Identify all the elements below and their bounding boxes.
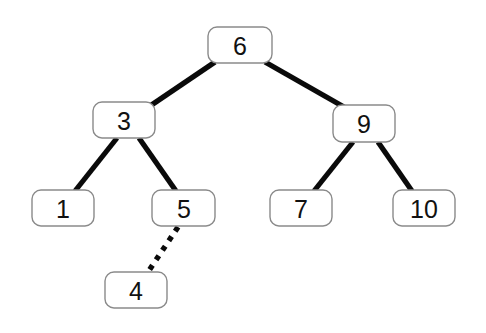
node-label-1: 1 (56, 195, 70, 223)
edge-9-to-7 (314, 142, 353, 191)
edge-9-to-10 (378, 142, 412, 191)
edge-3-to-5 (139, 138, 176, 191)
edge-3-to-1 (75, 138, 117, 191)
tree-node-4[interactable]: 4 (105, 272, 167, 308)
edge-layer (75, 62, 412, 272)
node-label-9: 9 (357, 110, 371, 138)
binary-tree-diagram: 6 3 9 1 5 7 (0, 0, 486, 333)
tree-node-6[interactable]: 6 (208, 27, 272, 63)
tree-node-5[interactable]: 5 (152, 190, 215, 226)
tree-node-3[interactable]: 3 (93, 102, 155, 138)
tree-node-10[interactable]: 10 (393, 190, 455, 226)
node-label-6: 6 (233, 32, 247, 60)
edge-6-to-3 (150, 62, 215, 106)
tree-node-1[interactable]: 1 (32, 190, 94, 226)
node-label-3: 3 (117, 107, 131, 135)
edge-6-to-9 (265, 62, 344, 107)
tree-node-7[interactable]: 7 (270, 190, 332, 226)
node-label-7: 7 (294, 195, 308, 223)
node-label-5: 5 (177, 195, 191, 223)
node-label-4: 4 (129, 277, 143, 305)
edge-5-to-4 (148, 227, 178, 272)
tree-svg-canvas: 6 3 9 1 5 7 (0, 0, 486, 333)
node-label-10: 10 (410, 195, 438, 223)
tree-node-9[interactable]: 9 (333, 105, 395, 142)
